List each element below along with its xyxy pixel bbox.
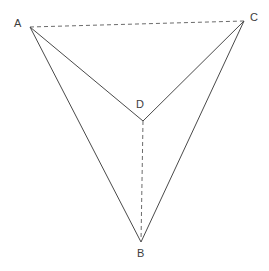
vertex-label-d: D [136,99,144,110]
vertex-label-b: B [137,248,145,259]
edge-ad [30,27,143,121]
edge-ac [30,21,244,27]
vertex-label-c: C [250,12,258,23]
edge-cb [141,21,244,242]
edge-cd [143,21,244,121]
edge-ab [30,27,141,242]
edge-db [141,121,143,242]
geometry-figure: ABCD [0,0,269,271]
edges-layer [30,21,244,242]
vertex-label-a: A [14,18,22,29]
figure-canvas [0,0,269,271]
